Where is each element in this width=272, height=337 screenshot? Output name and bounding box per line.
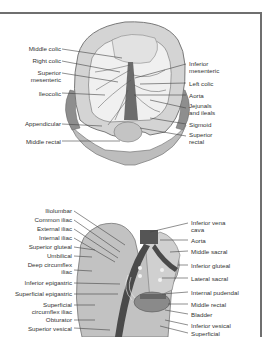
label-superficial-epigastric: Superficial epigastric — [15, 290, 72, 297]
label-bladder: Bladder — [191, 311, 212, 318]
label-superior-mesenteric: Superior mesenteric — [11, 69, 61, 83]
label-internal-iliac: Internal iliac — [39, 234, 72, 241]
label-lateral-sacral: Lateral sacral — [191, 275, 228, 282]
label-middle-sacral: Middle sacral — [191, 248, 227, 255]
label-middle-colic: Middle colic — [29, 45, 61, 52]
label-deep-circumflex-iliac: Deep circumflex iliac — [27, 261, 72, 275]
label-obturator: Obturator — [46, 316, 72, 323]
label-inferior-vena-cava: Inferior vena cava — [191, 219, 231, 233]
label-superior-gluteal: Superior gluteal — [29, 243, 72, 250]
label-superficial-circumflex-iliac: Superficial circumflex iliac — [27, 301, 72, 315]
label-sigmoid: Sigmoid — [189, 121, 211, 128]
label-superior-vesical: Superior vesical — [28, 325, 72, 332]
label-jejunals-ileals: Jejunals and ileals — [189, 102, 219, 116]
label-left-colic: Left colic — [189, 80, 213, 87]
label-umbilical: Umbilical — [47, 252, 72, 259]
label-middle-rectal-top: Middle rectal — [26, 138, 61, 145]
label-inferior-gluteal: Inferior gluteal — [191, 262, 230, 269]
label-inferior-mesenteric: Inferior mesenteric — [189, 60, 229, 74]
label-superficial: Superficial — [191, 330, 220, 337]
label-aorta-top: Aorta — [189, 92, 204, 99]
label-internal-pudendal: Internal pudendal — [191, 289, 239, 296]
label-ileocolic: Ileocolic — [39, 90, 61, 97]
label-right-colic: Right colic — [32, 57, 61, 64]
label-aorta-bottom: Aorta — [191, 237, 206, 244]
label-inferior-vesical: Inferior vesical — [191, 322, 231, 329]
label-middle-rectal-bottom: Middle rectal — [191, 301, 226, 308]
label-iliolumbar: Iliolumbar — [45, 207, 72, 214]
label-superior-rectal: Superior rectal — [189, 131, 219, 145]
label-appendicular: Appendicular — [25, 120, 61, 127]
label-common-iliac: Common iliac — [35, 216, 72, 223]
label-inferior-epigastric: Inferior epigastric — [25, 279, 72, 286]
label-external-iliac: External iliac — [37, 225, 72, 232]
